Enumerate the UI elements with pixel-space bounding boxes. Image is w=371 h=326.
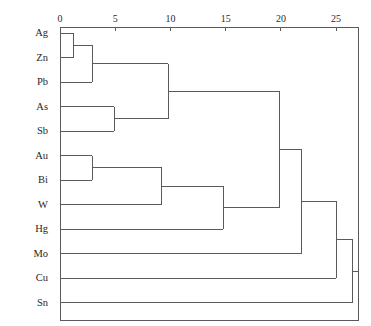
leaf-label-cu: Cu xyxy=(14,273,48,284)
x-tick-label-15: 15 xyxy=(214,14,238,24)
leaf-label-w: W xyxy=(14,200,48,211)
x-tick-label-0: 0 xyxy=(48,14,72,24)
x-axis xyxy=(60,27,358,321)
dendrogram-tree xyxy=(60,33,358,303)
leaf-label-ag: Ag xyxy=(14,28,48,39)
leaf-label-bi: Bi xyxy=(14,175,48,186)
leaf-label-pb: Pb xyxy=(14,77,48,88)
dendrogram-canvas xyxy=(0,0,371,326)
x-tick-label-10: 10 xyxy=(158,14,182,24)
leaf-label-zn: Zn xyxy=(14,53,48,64)
leaf-label-sn: Sn xyxy=(14,298,48,309)
leaf-label-au: Au xyxy=(14,151,48,162)
leaf-label-as: As xyxy=(14,102,48,113)
x-tick-label-5: 5 xyxy=(103,14,127,24)
x-tick-label-25: 25 xyxy=(324,14,348,24)
leaf-label-mo: Mo xyxy=(14,249,48,260)
leaf-label-hg: Hg xyxy=(14,224,48,235)
dendrogram-figure: 0510152025 AgZnPbAsSbAuBiWHgMoCuSn xyxy=(0,0,371,326)
x-tick-label-20: 20 xyxy=(269,14,293,24)
leaf-label-sb: Sb xyxy=(14,126,48,137)
